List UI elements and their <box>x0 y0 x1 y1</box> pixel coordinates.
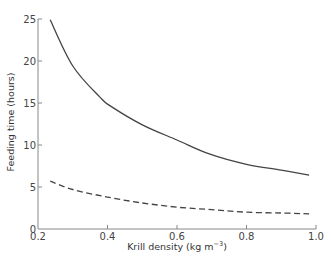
y-axis-label: Feeding time (hours) <box>5 73 16 172</box>
y-tick-label: 10 <box>23 140 36 151</box>
solid-line <box>50 20 309 175</box>
x-ticks: 0.20.40.60.81.0 <box>30 225 324 242</box>
data-series <box>50 20 309 214</box>
y-ticks: 0510152025 <box>23 14 42 235</box>
dashed-line <box>50 181 309 214</box>
x-axis-label-superscript: −3 <box>214 240 224 248</box>
x-tick-label: 1.0 <box>308 231 324 242</box>
x-tick-label: 0.8 <box>239 231 255 242</box>
y-tick-label: 25 <box>23 14 36 25</box>
axes <box>38 19 316 229</box>
y-tick-label: 5 <box>30 182 36 193</box>
x-tick-label: 0.2 <box>30 231 46 242</box>
x-axis-label: Krill density (kg m−3) <box>127 240 227 252</box>
y-tick-label: 20 <box>23 56 36 67</box>
y-tick-label: 15 <box>23 98 36 109</box>
feeding-time-chart: 0510152025 0.20.40.60.81.0 Krill density… <box>0 0 331 265</box>
x-tick-label: 0.4 <box>100 231 116 242</box>
